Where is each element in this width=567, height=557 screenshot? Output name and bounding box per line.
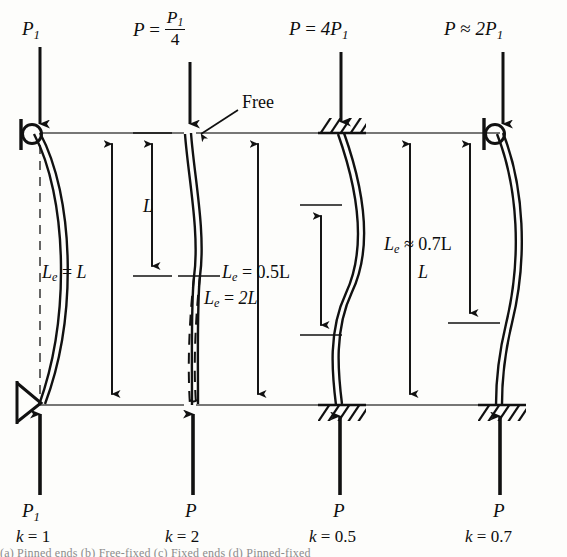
column-d-k-label: k = 0.7: [465, 527, 512, 547]
column-a-k-label: k = 1: [16, 527, 50, 547]
column-d-top-load-label: P ≈ 2P1: [444, 18, 503, 43]
column-c-bottom-fixed-support: [318, 404, 370, 422]
column-b-bottom-cap: [190, 400, 197, 401]
column-c-top-fixed-support: [318, 116, 372, 134]
column-d-group: [448, 52, 530, 495]
column-b-effective-length-label: Le = 2L: [204, 288, 258, 311]
column-c-group: [300, 52, 410, 495]
column-d-effective-length-label: Le ≈ 0.7L: [384, 234, 452, 257]
column-c-bottom-load-label: P: [333, 500, 345, 522]
column-c-top-load-label: P = 4P1: [289, 18, 348, 43]
column-a-effective-length-label: Le = L: [42, 262, 87, 285]
column-a-top-load-label: P1: [22, 18, 40, 43]
column-c-deformed-shape: [333, 133, 365, 405]
column-a-bottom-pin-support: [17, 381, 41, 424]
column-c-effective-length-label: Le = 0.5L: [222, 262, 290, 285]
column-b-length-label: L: [143, 196, 153, 217]
column-d-bottom-fixed-support: [478, 404, 530, 422]
column-a-bottom-load-label: P1: [22, 500, 40, 525]
column-b-free-end-label: Free: [242, 92, 274, 113]
column-d-bottom-load-label: P: [493, 500, 505, 522]
column-b-bottom-load-label: P: [185, 500, 197, 522]
column-b-free-pointer: [201, 110, 238, 134]
column-b-k-label: k = 2: [165, 527, 199, 547]
column-c-length-label: L: [418, 262, 428, 283]
column-b-top-load-label: P = P1 4: [133, 8, 185, 48]
column-d-deformed-shape: [496, 133, 522, 405]
column-c-k-label: k = 0.5: [309, 527, 356, 547]
column-b-deformed-shape: [185, 133, 202, 405]
figure-caption-clipped: (a) Pinned ends (b) Free-fixed (c) Fixed…: [0, 546, 567, 557]
